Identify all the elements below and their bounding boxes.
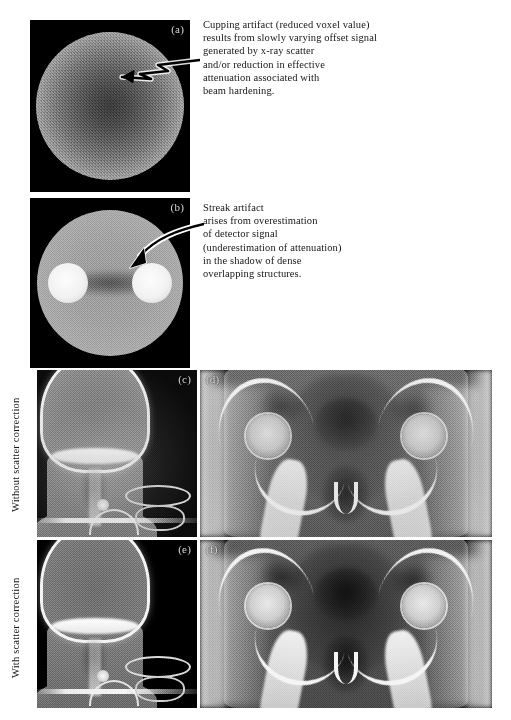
side-structure-upper	[125, 485, 191, 507]
panel-d-pelvis-without-correction: (d)	[200, 370, 492, 537]
panel-label-b: (b)	[171, 201, 184, 213]
side-structure-group	[121, 471, 191, 531]
pelvis-ct-image	[200, 540, 492, 708]
dense-insert-left	[48, 263, 88, 303]
bladder-region	[315, 398, 377, 450]
scatter-haze-overlay	[200, 540, 492, 708]
scatter-haze-overlay	[37, 540, 197, 708]
panel-label-d: (d)	[206, 373, 219, 385]
cupping-annotation-arrow-icon	[96, 52, 200, 86]
panel-label-a: (a)	[171, 23, 184, 35]
pelvis-ct-image	[200, 370, 492, 537]
panel-f-pelvis-with-correction: (f)	[200, 540, 492, 708]
streak-annotation-arrow-icon	[104, 222, 204, 284]
row-label-with-scatter-correction: With scatter correction	[10, 548, 21, 708]
panel-label-f: (f)	[206, 543, 218, 555]
figure-root: (a) Cupping artifact (reduced voxel valu…	[0, 0, 511, 720]
row-label-without-scatter-correction: Without scatter correction	[10, 375, 21, 535]
pubic-symphysis	[334, 482, 358, 514]
panel-label-e: (e)	[178, 543, 191, 555]
caption-streak-artifact: Streak artifact arises from overestimati…	[203, 201, 443, 280]
head-neck-ct-image	[37, 540, 197, 708]
side-structure-lower	[135, 505, 185, 531]
arm-left	[200, 370, 226, 537]
arm-right	[466, 370, 492, 537]
panel-e-head-neck-with-correction: (e)	[37, 540, 197, 708]
mandible-bone	[51, 448, 139, 464]
panel-a-cupping-artifact-phantom: (a)	[30, 20, 190, 192]
head-neck-ct-image	[37, 370, 197, 537]
caption-cupping-artifact: Cupping artifact (reduced voxel value) r…	[203, 18, 443, 97]
panel-label-c: (c)	[178, 373, 191, 385]
panel-c-head-neck-without-correction: (c)	[37, 370, 197, 537]
